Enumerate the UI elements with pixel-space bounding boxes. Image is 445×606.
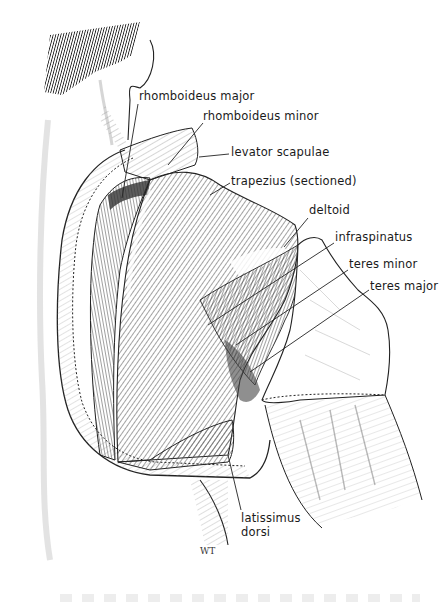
label-teres-major: teres major — [370, 280, 438, 293]
label-deltoid: deltoid — [309, 204, 350, 217]
label-latissimus-dorsi-line1: latissimus — [241, 512, 301, 525]
cropped-caption — [60, 594, 420, 602]
label-rhomboideus-major: rhomboideus major — [139, 90, 255, 103]
back-outline — [40, 120, 50, 560]
label-levator-scapulae: levator scapulae — [231, 146, 330, 159]
label-rhomboideus-minor: rhomboideus minor — [203, 110, 319, 123]
label-latissimus-dorsi-line2: dorsi — [241, 526, 270, 539]
label-teres-minor: teres minor — [349, 258, 417, 271]
hair-shading — [44, 22, 140, 95]
upper-arm — [265, 395, 420, 525]
anatomy-figure: rhomboideus major rhomboideus minor leva… — [0, 0, 445, 606]
label-infraspinatus: infraspinatus — [335, 231, 413, 244]
artist-signature: WT — [200, 546, 215, 556]
label-trapezius-sectioned: trapezius (sectioned) — [231, 175, 357, 188]
